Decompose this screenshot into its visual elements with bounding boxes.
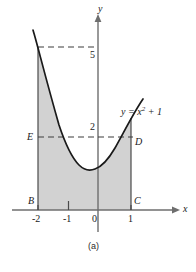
- equation-equals: =: [125, 106, 137, 117]
- y-axis-label: y: [98, 4, 102, 14]
- x-tick-label-minus-two: -2: [32, 214, 40, 224]
- figure-parabola-area: y x -2 -1 0 1 2 5 B C D E y = x2 + 1 (a): [0, 0, 196, 272]
- x-tick-label-minus-one: -1: [63, 214, 71, 224]
- point-label-e: E: [27, 132, 33, 142]
- x-axis-label: x: [183, 204, 187, 214]
- y-tick-label-two: 2: [90, 122, 95, 132]
- curve-equation-label: y = x2 + 1: [121, 107, 162, 117]
- point-label-d: D: [135, 137, 142, 147]
- x-tick-label-zero: 0: [92, 214, 97, 224]
- y-axis-arrow: [95, 14, 102, 22]
- figure-caption: (a): [88, 242, 99, 251]
- point-label-c: C: [134, 196, 141, 206]
- x-axis-arrow: [172, 207, 180, 214]
- y-tick-label-five: 5: [90, 50, 95, 60]
- equation-tail: + 1: [145, 106, 162, 117]
- x-tick-label-one: 1: [128, 214, 133, 224]
- point-label-b: B: [28, 196, 34, 206]
- shaded-region: [38, 47, 131, 210]
